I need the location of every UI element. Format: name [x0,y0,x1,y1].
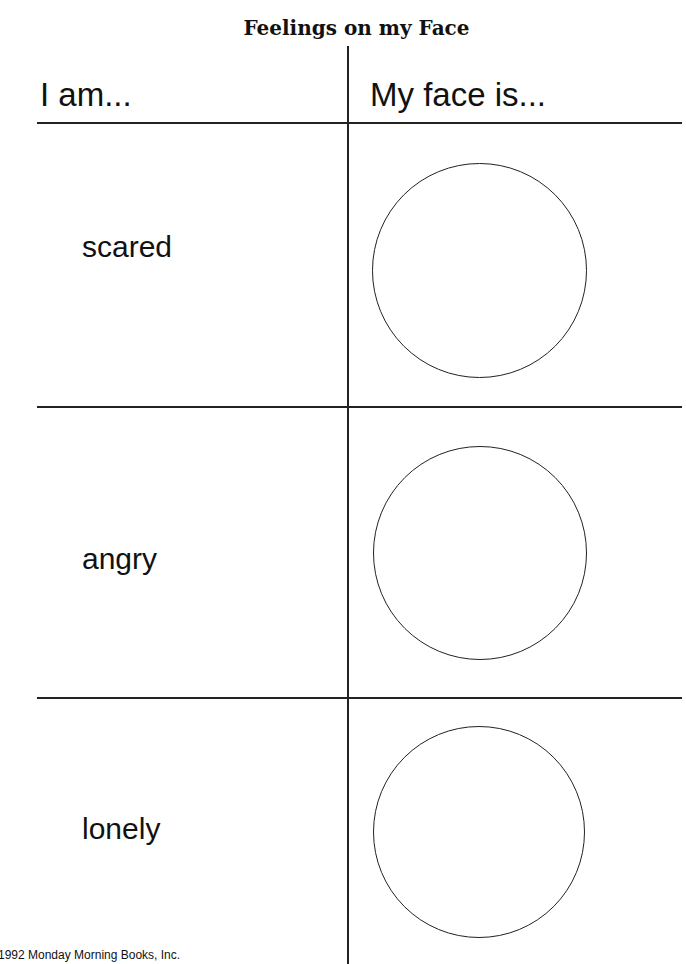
feeling-label-lonely: lonely [82,812,160,846]
face-circle-scared[interactable] [372,163,587,378]
feeling-label-scared: scared [82,230,172,264]
column-header-face: My face is... [370,76,546,114]
row-divider-2 [37,697,682,699]
column-divider [347,46,349,964]
copyright-footer: 1992 Monday Morning Books, Inc. [0,948,180,962]
face-circle-lonely[interactable] [373,726,585,938]
worksheet-title: Feelings on my Face [16,16,686,40]
row-divider-1 [37,406,682,408]
face-circle-angry[interactable] [373,446,587,660]
header-divider [37,122,682,124]
column-header-feeling: I am... [40,76,132,114]
feeling-label-angry: angry [82,542,157,576]
